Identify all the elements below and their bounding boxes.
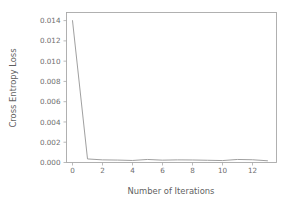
line-chart: 0.0000.0020.0040.0060.0080.0100.0120.014… bbox=[0, 0, 295, 207]
y-tick-label: 0.010 bbox=[40, 57, 61, 66]
chart-figure: 0.0000.0020.0040.0060.0080.0100.0120.014… bbox=[0, 0, 295, 207]
y-tick-label: 0.000 bbox=[40, 158, 61, 167]
y-tick-label: 0.012 bbox=[40, 36, 61, 45]
y-tick-label: 0.014 bbox=[40, 16, 61, 25]
x-tick-label: 12 bbox=[248, 166, 257, 175]
x-tick-label: 2 bbox=[100, 166, 105, 175]
y-tick-label: 0.006 bbox=[40, 97, 61, 106]
y-tick-label: 0.002 bbox=[40, 138, 61, 147]
x-tick-label: 0 bbox=[70, 166, 75, 175]
x-tick-label: 6 bbox=[160, 166, 165, 175]
y-tick-label: 0.008 bbox=[40, 77, 61, 86]
x-tick-label: 4 bbox=[130, 166, 135, 175]
x-axis-title: Number of Iterations bbox=[128, 186, 215, 196]
x-tick-label: 10 bbox=[218, 166, 228, 175]
x-tick-label: 8 bbox=[190, 166, 195, 175]
y-axis-title: Cross Entropy Loss bbox=[8, 48, 18, 127]
y-tick-label: 0.004 bbox=[40, 118, 61, 127]
